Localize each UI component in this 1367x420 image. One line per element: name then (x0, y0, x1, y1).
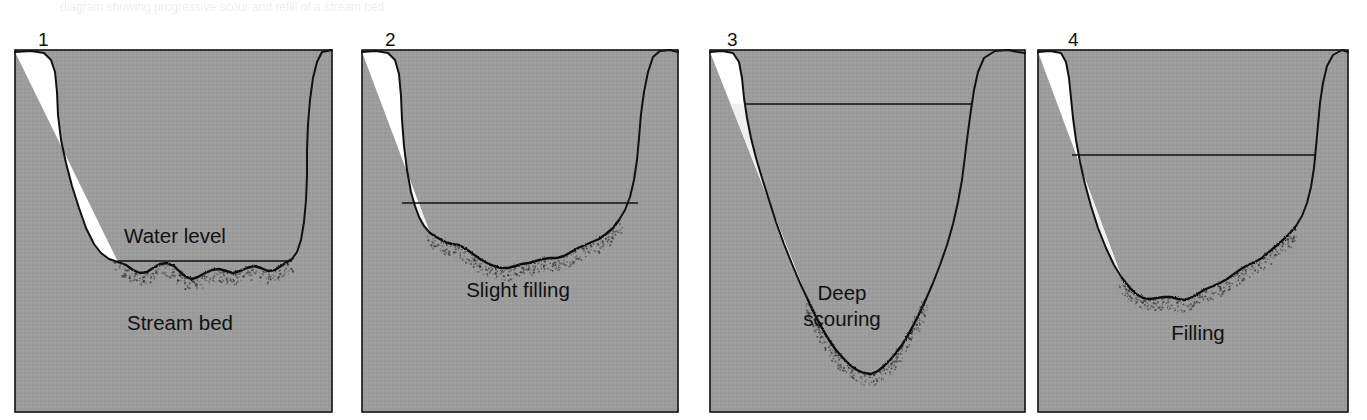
right-bank-outline-1 (292, 50, 332, 259)
left-bank-outline-1 (15, 51, 118, 262)
ground-fill (710, 50, 1025, 412)
water-body-1 (15, 261, 332, 412)
left-bank-outline-3 (710, 51, 808, 300)
channel-void-3 (710, 51, 808, 300)
bed-surface-line-2 (430, 220, 619, 268)
ground-fill (15, 50, 332, 412)
right-bank-outline-2 (619, 50, 678, 220)
water-level-label-1: Water level (124, 224, 226, 247)
panel-border-4 (1038, 50, 1348, 412)
ground-fill (1038, 50, 1348, 412)
bed-surface-line-4 (1122, 226, 1296, 300)
scan-bleed-text: diagram showing progressive scour and re… (60, 0, 1160, 14)
ground-mass-1 (15, 50, 332, 412)
channel-void-2 (362, 51, 430, 233)
panel-drawing-3: Deepscouring (0, 0, 1367, 420)
bed-state-label-4: Filling (1171, 321, 1225, 344)
channel-void-4 (1038, 51, 1122, 278)
panel-border-1 (15, 50, 332, 412)
sediment-stipple-2 (427, 222, 624, 282)
panel-drawing-2: Slight filling (0, 0, 1367, 420)
bed-state-label-1: Stream bed (127, 311, 233, 334)
bed-state-label-3: Deepscouring (803, 281, 881, 330)
sediment-stipple-3 (806, 302, 929, 387)
panel-number-1: 1 (38, 30, 49, 49)
panel-drawing-1: Water levelStream bed (0, 0, 1367, 420)
bed-surface-line-1 (118, 259, 292, 279)
sediment-stipple-4 (1119, 228, 1297, 313)
ground-mass-3 (710, 50, 1025, 412)
panel-border-2 (362, 50, 678, 412)
bed-state-label-2: Slight filling (466, 278, 570, 301)
panel-border-3 (710, 50, 1025, 412)
stream-scour-figure: diagram showing progressive scour and re… (0, 0, 1367, 420)
ground-fill (362, 50, 678, 412)
water-body-2 (362, 203, 678, 412)
panel-number-4: 4 (1068, 30, 1079, 49)
water-body-4 (1038, 155, 1348, 412)
panel-number-3: 3 (727, 30, 738, 49)
water-body-3 (710, 104, 1025, 412)
panel-number-2: 2 (385, 30, 396, 49)
ground-mass-2 (362, 50, 678, 412)
left-bank-outline-4 (1038, 51, 1122, 278)
right-bank-outline-3 (926, 50, 1025, 299)
channel-void-1 (15, 51, 118, 262)
right-bank-outline-4 (1296, 50, 1348, 226)
bed-surface-line-3 (808, 299, 926, 374)
panel-drawing-4: Filling (0, 0, 1367, 420)
left-bank-outline-2 (362, 51, 430, 233)
sediment-stipple-1 (114, 261, 295, 290)
ground-mass-4 (1038, 50, 1348, 412)
